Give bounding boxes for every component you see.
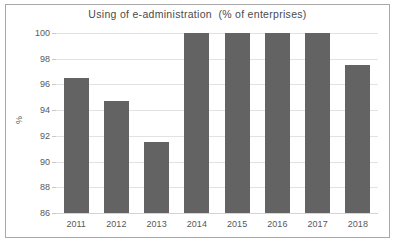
x-tick-label-2013: 2013 <box>137 219 177 229</box>
bar-2015 <box>225 33 250 213</box>
y-tick-mark-96 <box>52 84 56 85</box>
y-tick-mark-92 <box>52 136 56 137</box>
y-tick-label-86: 86 <box>24 208 50 218</box>
y-tick-label-94: 94 <box>24 105 50 115</box>
y-tick-label-88: 88 <box>24 182 50 192</box>
gridline-86 <box>56 213 378 214</box>
y-tick-label-96: 96 <box>24 79 50 89</box>
bar-2017 <box>305 33 330 213</box>
plot-area <box>56 33 378 213</box>
y-tick-label-100: 100 <box>24 28 50 38</box>
y-tick-label-92: 92 <box>24 131 50 141</box>
y-tick-mark-86 <box>52 213 56 214</box>
x-tick-label-2015: 2015 <box>217 219 257 229</box>
x-tick-label-2016: 2016 <box>257 219 297 229</box>
bar-2011 <box>64 78 89 213</box>
bar-2018 <box>345 65 370 213</box>
x-tick-label-2017: 2017 <box>298 219 338 229</box>
y-tick-mark-100 <box>52 33 56 34</box>
x-axis-tick-labels: 20112012201320142015201620172018 <box>56 219 378 233</box>
bar-2016 <box>265 33 290 213</box>
y-tick-label-98: 98 <box>24 54 50 64</box>
bar-2012 <box>104 101 129 213</box>
x-tick-label-2011: 2011 <box>56 219 96 229</box>
y-tick-mark-88 <box>52 187 56 188</box>
x-tick-label-2012: 2012 <box>96 219 136 229</box>
bar-2014 <box>184 33 209 213</box>
bar-2013 <box>144 142 169 213</box>
x-tick-label-2018: 2018 <box>338 219 378 229</box>
y-tick-mark-94 <box>52 110 56 111</box>
chart-title: Using of e-administration (% of enterpri… <box>0 8 395 20</box>
chart-figure: Using of e-administration (% of enterpri… <box>0 0 395 243</box>
y-axis-tick-labels: 10098969492908886 <box>22 33 50 213</box>
y-tick-mark-90 <box>52 162 56 163</box>
y-tick-mark-98 <box>52 59 56 60</box>
x-tick-label-2014: 2014 <box>177 219 217 229</box>
y-tick-label-90: 90 <box>24 157 50 167</box>
